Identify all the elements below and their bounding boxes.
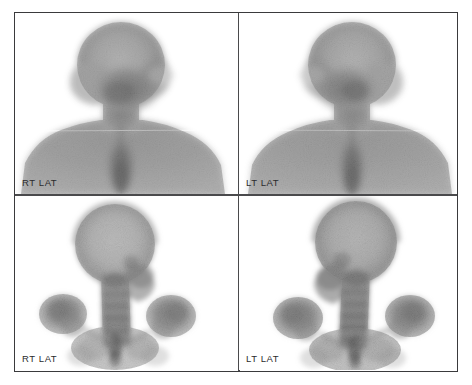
image-frame: RT LAT (14, 12, 458, 372)
panel-label-bottom-right: LT LAT (246, 353, 279, 364)
scan-image-bottom-left (15, 196, 238, 370)
scan-panel-top-right[interactable]: LT LAT (239, 13, 456, 194)
scan-panel-bottom-right[interactable]: LT LAT (239, 196, 456, 370)
panel-label-top-left: RT LAT (22, 177, 57, 188)
scan-viewer: RT LAT (0, 0, 472, 385)
scan-image-bottom-right (239, 196, 456, 370)
soft-tissue-scan-graphic (239, 13, 456, 194)
scan-panel-top-left[interactable]: RT LAT (15, 13, 238, 194)
panel-label-bottom-left: RT LAT (22, 353, 57, 364)
bone-phase-scan-graphic (239, 196, 456, 370)
scan-image-top-left (15, 13, 238, 194)
soft-tissue-scan-graphic (15, 13, 238, 194)
scan-image-top-right (239, 13, 456, 194)
panel-label-top-right: LT LAT (246, 177, 279, 188)
bone-phase-scan-graphic (15, 196, 238, 370)
scan-panel-bottom-left[interactable]: RT LAT (15, 196, 238, 370)
